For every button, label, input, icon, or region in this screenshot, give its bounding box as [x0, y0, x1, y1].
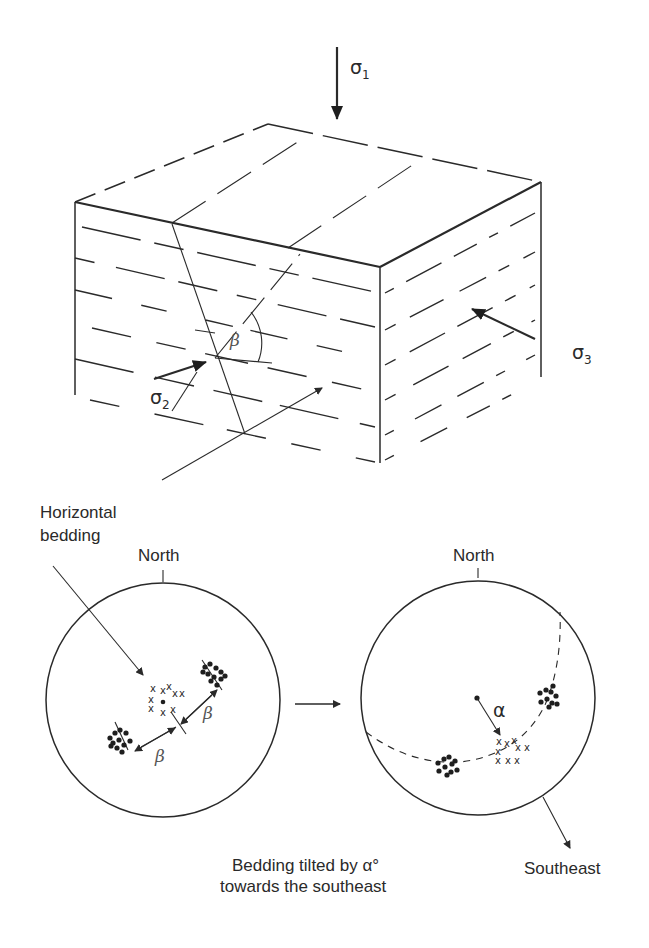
- svg-text:x: x: [179, 688, 185, 699]
- left-stereonet: Horizontal bedding North x x x x x x x x…: [40, 503, 280, 817]
- alpha-label: α: [493, 699, 506, 721]
- rotated-great-circle: [366, 612, 560, 762]
- plane-trace-left: [171, 712, 186, 734]
- svg-text:x: x: [515, 742, 521, 753]
- right-face-bedding: [385, 213, 535, 460]
- caption-line2: towards the southeast: [220, 877, 387, 896]
- fracture-plane-inclined: [215, 254, 300, 358]
- svg-text:x: x: [150, 683, 156, 694]
- fracture-poles-cluster-lower-left: [107, 722, 132, 755]
- sigma1-label: σ1: [350, 56, 370, 82]
- svg-text:x: x: [505, 755, 511, 766]
- fracture-poles-cluster-upper-right: [200, 660, 227, 690]
- beta-label-lower: β: [154, 746, 165, 766]
- bedding-tick: [195, 330, 215, 333]
- bedding-poles-cluster-right: x x x x x x x x x: [495, 735, 530, 766]
- svg-text:x: x: [170, 704, 176, 715]
- joint-trace-top-2: [288, 160, 420, 248]
- joint-trace-top-1: [172, 136, 307, 223]
- caption-line1: Bedding tilted by α°: [232, 856, 379, 875]
- front-face-bedding: [75, 227, 375, 462]
- bedding-leader-arrow: [308, 388, 322, 396]
- right-stereonet: North α x x x x x x x x x: [361, 546, 601, 878]
- svg-text:x: x: [148, 703, 154, 714]
- beta-label-upper: β: [202, 703, 213, 723]
- north-label-right: North: [453, 546, 495, 565]
- block-top-back-right-edge: [268, 124, 541, 182]
- beta-label-block: β: [229, 330, 240, 350]
- sigma3-label: σ3: [572, 341, 592, 367]
- svg-text:x: x: [495, 755, 501, 766]
- bedding-pointer-arrow: [53, 566, 143, 675]
- bedding-poles-cluster-left: x x x x x x x x x: [148, 681, 185, 718]
- rock-block: β: [75, 124, 541, 463]
- bedding-leader-line: [162, 396, 308, 480]
- svg-text:x: x: [504, 738, 510, 749]
- southeast-arrow: [543, 797, 570, 848]
- sigma2-arrow: [154, 362, 206, 379]
- svg-text:x: x: [172, 688, 178, 699]
- sigma2-label: σ2: [150, 386, 170, 412]
- north-label-left: North: [138, 546, 180, 565]
- beta-angle-arc: [251, 312, 262, 362]
- horizontal-bedding-label-line2: bedding: [40, 526, 101, 545]
- block-top-right-edge: [380, 182, 541, 267]
- svg-text:x: x: [160, 707, 166, 718]
- svg-text:x: x: [514, 755, 520, 766]
- fracture-poles-cluster-right: [537, 683, 559, 709]
- conjugate-fracture-trace: [172, 372, 197, 411]
- block-top-front-edge: [75, 202, 380, 267]
- horizontal-bedding-label-line1: Horizontal: [40, 503, 117, 522]
- svg-text:x: x: [524, 742, 530, 753]
- beta-arrow-lower-in: [141, 728, 175, 747]
- geology-diagram: β σ1 σ2 σ3 Horizontal bedding North x x …: [0, 0, 649, 948]
- fracture-poles-cluster-bottom: [435, 754, 459, 777]
- sigma3-arrow: [472, 309, 535, 339]
- block-top-back-left-edge: [75, 124, 268, 202]
- southeast-label: Southeast: [524, 859, 601, 878]
